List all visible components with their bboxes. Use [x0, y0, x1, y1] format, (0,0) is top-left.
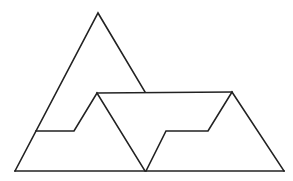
figure-canvas	[0, 0, 293, 181]
top-band-line	[97, 92, 232, 93]
left-step	[36, 93, 145, 171]
triangle-puzzle-diagram	[0, 0, 293, 181]
right-step	[146, 92, 284, 171]
